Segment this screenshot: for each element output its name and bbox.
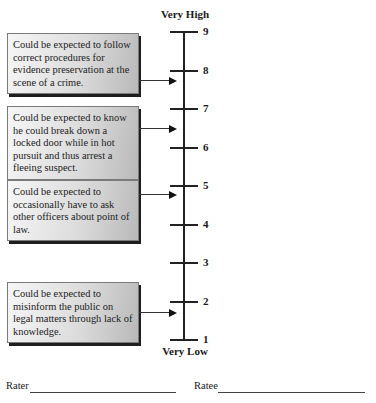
arrow-icon <box>139 128 175 129</box>
scale-top-label: Very High <box>150 8 220 20</box>
tick-label-4: 4 <box>203 218 209 230</box>
tick-8 <box>170 70 198 72</box>
tick-label-1: 1 <box>203 333 209 345</box>
anchor-box-4: Could be expected to misinform the publi… <box>7 282 139 343</box>
tick-7 <box>170 108 198 110</box>
ratee-signature-line[interactable] <box>218 392 365 393</box>
scale-bottom-label: Very Low <box>150 345 220 357</box>
rater-label: Rater <box>6 380 29 391</box>
tick-1 <box>170 339 198 341</box>
anchor-box-3: Could be expected to occasionally have t… <box>7 180 139 241</box>
arrow-icon <box>139 194 175 195</box>
tick-4 <box>170 224 198 226</box>
anchor-box-2: Could be expected to know he could break… <box>7 106 139 180</box>
arrow-icon <box>139 312 175 313</box>
anchor-box-1: Could be expected to follow correct proc… <box>7 33 139 94</box>
tick-3 <box>170 262 198 264</box>
tick-label-6: 6 <box>203 141 209 153</box>
tick-5 <box>170 185 198 187</box>
tick-label-3: 3 <box>203 256 209 268</box>
arrow-icon <box>139 80 175 81</box>
tick-label-2: 2 <box>203 295 209 307</box>
tick-label-5: 5 <box>203 179 209 191</box>
tick-label-8: 8 <box>203 64 209 76</box>
ratee-label: Ratee <box>194 380 218 391</box>
tick-label-9: 9 <box>203 25 209 37</box>
tick-2 <box>170 301 198 303</box>
tick-6 <box>170 147 198 149</box>
tick-label-7: 7 <box>203 102 209 114</box>
tick-9 <box>170 31 198 33</box>
rater-signature-line[interactable] <box>30 392 176 393</box>
